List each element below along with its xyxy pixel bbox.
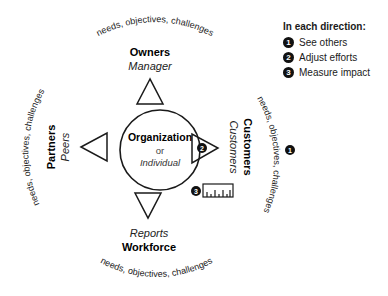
center-subtitle: Individual (140, 157, 181, 168)
arc-text-right: needs, objectives, challenges (255, 94, 282, 215)
legend-item-adjust-efforts: 2 Adjust efforts (283, 50, 370, 65)
manager-label: Manager (128, 60, 173, 72)
badge-1-label: 1 (288, 147, 292, 154)
number-2-icon: 2 (283, 52, 294, 63)
legend-item-see-others: 1 See others (283, 35, 370, 50)
legend-label: Adjust efforts (299, 52, 357, 63)
number-3-icon: 3 (283, 67, 294, 78)
badge-2-label: 2 (200, 145, 204, 152)
triangle-left-icon (81, 133, 107, 161)
legend-label: See others (299, 37, 347, 48)
triangle-up-icon (137, 79, 163, 104)
peers-label: Peers (59, 132, 71, 161)
owners-label: Owners (130, 46, 170, 58)
customers-role-label: Customers (228, 120, 240, 174)
customers-group-label: Customers (242, 118, 254, 175)
legend-item-measure-impact: 3 Measure impact (283, 65, 370, 80)
workforce-label: Workforce (122, 241, 176, 253)
number-1-icon: 1 (283, 37, 294, 48)
triangle-down-icon (135, 193, 161, 218)
center-title: Organization (128, 131, 192, 143)
arc-text-bottom: needs, objectives, challenges (99, 255, 214, 279)
center-connector: or (156, 145, 164, 156)
reports-label: Reports (130, 227, 169, 239)
arc-text-top: needs, objectives, challenges (95, 14, 216, 38)
badge-3-label: 3 (194, 188, 198, 195)
ruler-icon (203, 184, 233, 197)
partners-label: Partners (45, 125, 57, 170)
arc-text-left: needs, objectives, challenges (20, 86, 46, 207)
legend: In each direction: 1 See others 2 Adjust… (283, 21, 370, 80)
legend-label: Measure impact (299, 67, 370, 78)
legend-title: In each direction: (283, 21, 370, 32)
